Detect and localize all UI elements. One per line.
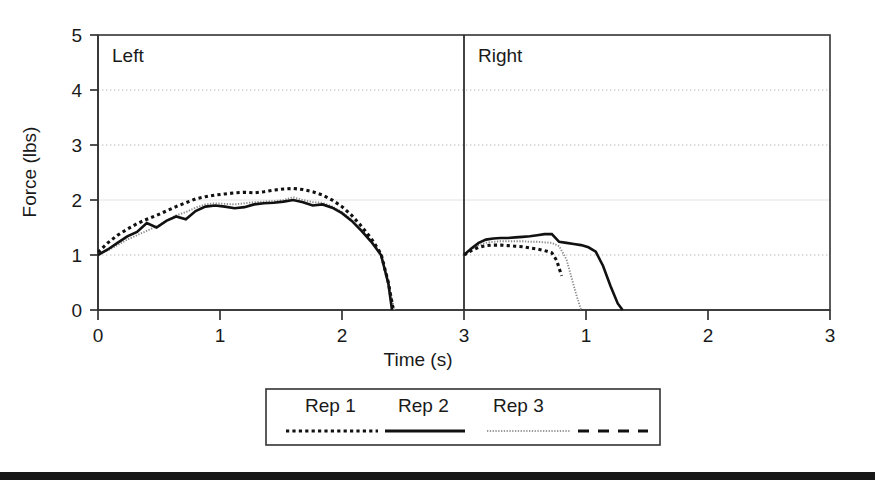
x-axis: 0 1 2 3 1 2 3 xyxy=(93,310,836,346)
legend-label-rep3: Rep 3 xyxy=(493,395,544,416)
x-tick-label-left-0: 0 xyxy=(93,325,104,346)
x-tick-label-right-3: 3 xyxy=(825,325,836,346)
series-right-panel xyxy=(464,234,623,310)
series-left-panel xyxy=(98,188,394,310)
panel-label-left: Left xyxy=(112,45,144,66)
x-tick-label-left-2: 2 xyxy=(337,325,348,346)
legend-label-rep1: Rep 1 xyxy=(305,395,356,416)
scan-footer-bar xyxy=(0,472,875,480)
x-tick-label-right-1: 1 xyxy=(581,325,592,346)
x-axis-title: Time (s) xyxy=(384,349,453,370)
line-right-rep1 xyxy=(464,245,562,276)
x-tick-label-right-2: 2 xyxy=(703,325,714,346)
y-axis: 5 4 3 2 1 0 xyxy=(71,25,98,321)
y-tick-label-2: 2 xyxy=(71,190,82,211)
y-tick-label-0: 0 xyxy=(71,300,82,321)
force-vs-time-chart: 5 4 3 2 1 0 Force (lbs) 0 1 2 3 1 2 3 xyxy=(0,0,875,484)
line-left-rep3 xyxy=(98,197,394,310)
x-tick-label-left-1: 1 xyxy=(215,325,226,346)
y-tick-label-3: 3 xyxy=(71,135,82,156)
chart-svg: 5 4 3 2 1 0 Force (lbs) 0 1 2 3 1 2 3 xyxy=(0,0,875,470)
y-tick-label-5: 5 xyxy=(71,25,82,46)
legend-label-rep2: Rep 2 xyxy=(398,395,449,416)
legend: Rep 1 Rep 2 Rep 3 xyxy=(266,389,660,445)
y-tick-label-4: 4 xyxy=(71,80,82,101)
y-axis-title: Force (lbs) xyxy=(19,127,40,218)
panel-label-right: Right xyxy=(478,45,523,66)
x-tick-label-left-3: 3 xyxy=(459,325,470,346)
line-right-rep3 xyxy=(464,241,581,310)
y-tick-label-1: 1 xyxy=(71,245,82,266)
